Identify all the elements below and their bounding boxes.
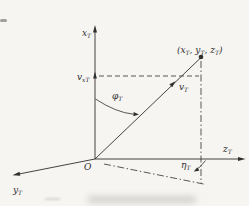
y-axis-label: yT [12,185,23,196]
z-axis-label: zT [222,144,233,155]
vx-arrowhead [93,72,97,79]
velocity-vector: vT [95,59,200,160]
y-axis-arrowhead [13,172,21,176]
velocity-vector-label: vT [179,82,189,93]
coordinate-diagram: xT zT yT O vT (xT, yT, zT) vxT [0,0,249,206]
phi-angle-label: φT [112,91,123,102]
origin-label: O [84,162,92,172]
x-axis-arrowhead [93,25,97,33]
caption-smudge [88,196,196,203]
x-axis: xT [82,25,97,159]
velocity-x-label: vxT [77,72,90,83]
target-point-label: (xT, yT, zT) [177,45,223,56]
scanned-figure-page: xT zT yT O vT (xT, yT, zT) vxT [0,0,249,206]
y-axis: yT [12,159,95,196]
caption-smudge-dash [45,198,60,200]
scan-speck [0,19,7,22]
z-axis-arrowhead [238,157,246,161]
eta-angle: ηT [181,160,206,172]
x-axis-label: xT [82,28,92,39]
phi-arc [96,99,134,114]
vector-line [95,59,200,160]
phi-arc-arrowhead [133,112,139,116]
phi-angle: φT [96,91,140,117]
slant-dashdot-line [104,164,206,185]
z-axis: zT [95,144,246,162]
target-point: (xT, yT, zT) [177,45,223,59]
eta-angle-label: ηT [181,160,191,171]
